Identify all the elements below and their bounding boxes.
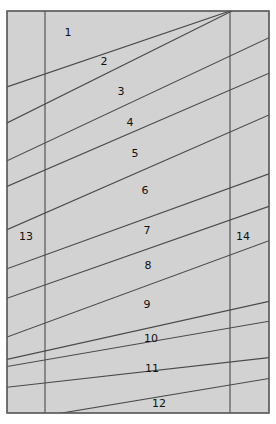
region-label-layer-3: 3 bbox=[118, 86, 125, 97]
region-label-layer-11: 11 bbox=[145, 363, 159, 374]
region-label-layer-10: 10 bbox=[144, 333, 158, 344]
region-label-layer-9: 9 bbox=[144, 299, 151, 310]
region-label-layer-4: 4 bbox=[127, 117, 134, 128]
layer-diagram-svg bbox=[0, 0, 276, 424]
region-label-left-column: 13 bbox=[19, 231, 33, 242]
region-label-layer-2: 2 bbox=[101, 56, 108, 67]
region-label-right-column: 14 bbox=[236, 231, 250, 242]
diagram-canvas: 1234567891011121314 bbox=[0, 0, 276, 424]
region-label-layer-8: 8 bbox=[145, 260, 152, 271]
region-label-layer-7: 7 bbox=[144, 225, 151, 236]
region-label-layer-12: 12 bbox=[152, 398, 166, 409]
region-label-layer-5: 5 bbox=[132, 148, 139, 159]
region-label-layer-1: 1 bbox=[65, 27, 72, 38]
region-label-layer-6: 6 bbox=[142, 185, 149, 196]
